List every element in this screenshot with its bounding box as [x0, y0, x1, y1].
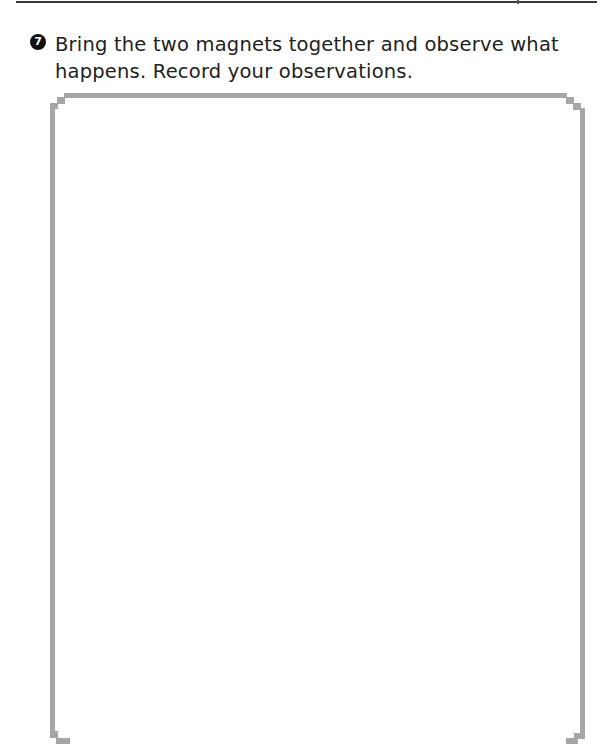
- header-rule: [16, 1, 597, 3]
- header-tick-mark: [517, 0, 519, 4]
- question-number-icon: 7: [30, 34, 46, 50]
- observations-answer-field[interactable]: [56, 98, 580, 749]
- question-text: Bring the two magnets together and obser…: [55, 31, 575, 85]
